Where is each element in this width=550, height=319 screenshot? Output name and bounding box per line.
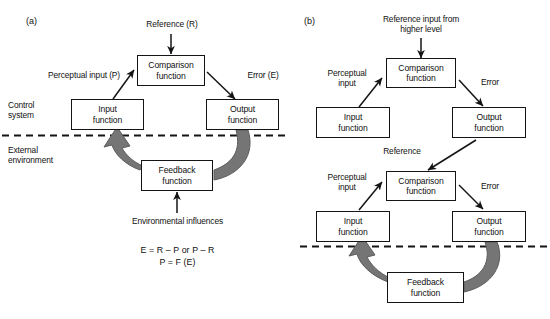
node-input-function-b-lower: Input function [316,211,390,242]
perceptual-input-line1: Perceptual [327,68,366,78]
node-line-2: function [338,123,367,133]
perceptual-input-label-b-lower: Perceptual input [316,172,378,192]
node-line-2: function [228,115,257,125]
error-label-b-lower: Error [470,181,510,191]
reference-input-line1: Reference input from [383,14,459,24]
arrow-output-upper-to-comparison-lower-b [428,140,476,170]
error-label-b-upper: Error [470,77,510,87]
node-output-function-b-upper: Output function [452,107,526,138]
node-line-2: function [162,176,191,186]
node-line-2: function [474,123,503,133]
node-line-2: function [93,115,122,125]
external-environment-label: External environment [8,145,78,165]
node-line-1: Input [98,104,117,114]
feedback-arrow-feedback-to-input-b [349,236,390,282]
control-system-label: Control system [8,100,58,120]
node-line-2: function [156,71,185,81]
equation-error: E = R – P or P – R [95,244,260,256]
perceptual-input-line2: input [338,182,356,192]
node-output-function-b-lower: Output function [452,211,526,242]
node-input-function-a: Input function [71,99,144,130]
node-input-function-b-upper: Input function [316,107,390,138]
node-comparison-function-a: Comparison function [137,55,205,86]
node-line-2: function [406,186,435,196]
node-line-2: function [411,288,440,298]
feedback-arrow-feedback-to-input-a [104,127,143,170]
node-line-1: Feedback [407,277,444,287]
node-line-1: Output [476,216,501,226]
perceptual-input-label-b-upper: Perceptual input [316,68,378,88]
node-line-2: function [338,227,367,237]
node-line-2: function [406,73,435,83]
reference-input-label-b: Reference input from higher level [358,14,484,34]
node-line-1: Comparison [398,63,443,73]
node-line-2: function [474,227,503,237]
environmental-influences-label: Environmental influences [100,216,255,226]
reference-label-b-mid: Reference [370,146,434,156]
perceptual-input-line2: input [338,78,356,88]
perceptual-input-label-a: Perceptual input (P) [24,70,144,80]
reference-label-a: Reference (R) [134,19,210,29]
reference-input-line2: higher level [400,24,442,34]
node-comparison-function-b-lower: Comparison function [386,171,456,201]
panel-label-a: (a) [26,16,37,26]
node-line-1: Output [230,104,255,114]
external-environment-line2: environment [8,155,53,165]
feedback-arrow-output-to-feedback-a [214,130,250,180]
node-line-1: Feedback [159,165,196,175]
node-output-function-a: Output function [206,99,279,130]
node-line-1: Input [344,216,363,226]
node-line-1: Comparison [148,60,193,70]
node-line-1: Output [476,112,501,122]
node-feedback-function-b: Feedback function [387,272,464,303]
node-line-1: Comparison [398,176,443,186]
node-line-1: Input [344,112,363,122]
control-system-line1: Control [8,100,34,110]
figure-control-system-diagram: (a) Reference (R) Perceptual input (P) E… [0,0,550,319]
panel-label-b: (b) [304,16,315,26]
diagram-vector-layer [0,0,550,319]
error-label-a: Error (E) [236,70,290,80]
external-environment-line1: External [8,145,38,155]
node-comparison-function-b-upper: Comparison function [386,58,456,88]
node-feedback-function-a: Feedback function [141,160,213,191]
equation-perception: P = F (E) [95,256,260,268]
perceptual-input-line1: Perceptual [327,172,366,182]
feedback-arrow-output-to-feedback-b [464,242,500,292]
arrow-comparison-to-output-a [207,72,235,99]
control-system-line2: system [8,110,34,120]
